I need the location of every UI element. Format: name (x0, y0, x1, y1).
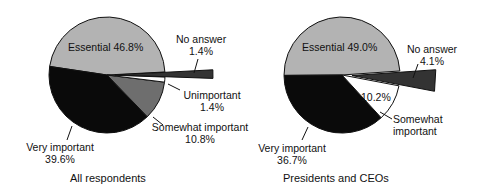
label-name: Very important (22, 141, 98, 153)
label-value: 36.7% (254, 154, 330, 166)
label-value: 10.8% (150, 133, 250, 145)
label-very-left: Very important 39.6% (22, 141, 98, 165)
label-unimportant-left: Unimportant 1.4% (180, 89, 244, 113)
title-presidents-ceos: Presidents and CEOs (283, 172, 389, 184)
label-no-answer-left: No answer 1.4% (176, 33, 226, 57)
label-name: No answer (176, 33, 226, 45)
label-essential-left: Essential 46.8% (68, 41, 143, 53)
label-no-answer-right: No answer 4.1% (406, 43, 458, 67)
label-essential-right: Essential 49.0% (302, 41, 377, 53)
label-name-2: important (393, 125, 443, 137)
label-value: 4.1% (406, 55, 458, 67)
label-name: Very important (254, 142, 330, 154)
label-value: 1.4% (176, 45, 226, 57)
title-all-respondents: All respondents (70, 172, 146, 184)
label-somewhat-left: Somewhat important 10.8% (150, 121, 250, 145)
label-name: Somewhat (393, 113, 443, 125)
label-somewhat-right: Somewhat important (393, 113, 443, 137)
label-very-right: Very important 36.7% (254, 142, 330, 166)
label-value: 39.6% (22, 153, 98, 165)
label-name: No answer (406, 43, 458, 55)
label-somewhat-value-right: 10.2% (361, 91, 391, 103)
label-name: Somewhat important (150, 121, 250, 133)
label-name: Unimportant (180, 89, 244, 101)
label-value: 1.4% (180, 101, 244, 113)
